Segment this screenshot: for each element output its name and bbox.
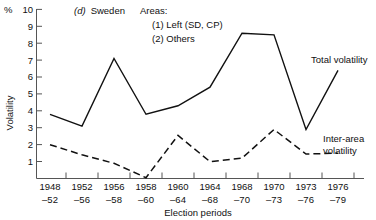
area-2-label: (2) Others bbox=[152, 33, 195, 44]
y-tick-label: 2 bbox=[28, 139, 33, 150]
x-tick-label-bottom: –68 bbox=[202, 194, 218, 205]
y-axis-ticks bbox=[37, 9, 43, 161]
x-tick-label-top: 1960 bbox=[167, 181, 188, 192]
x-tick-label-top: 1964 bbox=[199, 181, 220, 192]
x-axis-title: Election periods bbox=[164, 207, 232, 218]
x-tick-label-bottom: –70 bbox=[234, 194, 250, 205]
x-tick-label-bottom: –79 bbox=[330, 194, 346, 205]
chart-svg: 10 9 8 7 6 5 4 3 2 1 % Volatility bbox=[0, 0, 376, 220]
area-1-label: (1) Left (SD, CP) bbox=[152, 19, 223, 30]
areas-heading: Areas: bbox=[140, 5, 167, 16]
x-tick-label-bottom: –56 bbox=[74, 194, 90, 205]
figure-title-country: Sweden bbox=[91, 5, 125, 16]
y-tick-label: 1 bbox=[28, 156, 33, 167]
y-tick-label: 10 bbox=[22, 4, 33, 15]
x-tick-label-bottom: –52 bbox=[42, 194, 58, 205]
y-tick-label: 8 bbox=[28, 38, 33, 49]
x-tick-label-top: 1956 bbox=[103, 181, 124, 192]
y-axis-tick-labels: 10 9 8 7 6 5 4 3 2 1 bbox=[22, 4, 33, 167]
figure-title: (d)Sweden bbox=[74, 5, 125, 16]
x-tick-label-top: 1976 bbox=[327, 181, 348, 192]
y-tick-label: 7 bbox=[28, 55, 33, 66]
x-tick-label-bottom: –58 bbox=[106, 194, 122, 205]
y-tick-label: 3 bbox=[28, 122, 33, 133]
total-volatility-label: Total volatility bbox=[311, 54, 368, 65]
y-tick-label: 6 bbox=[28, 71, 33, 82]
x-tick-label-top: 1948 bbox=[39, 181, 60, 192]
series-line-total-volatility bbox=[50, 33, 338, 129]
x-axis-tick-labels: 1948 1952 1956 1958 1960 1964 1968 1970 … bbox=[39, 181, 348, 205]
figure-title-index: (d) bbox=[74, 5, 86, 16]
x-tick-label-bottom: –64 bbox=[170, 194, 186, 205]
y-tick-label: 4 bbox=[28, 105, 33, 116]
y-axis-title: Volatility bbox=[4, 95, 15, 130]
x-tick-label-top: 1970 bbox=[263, 181, 284, 192]
x-axis-ticks bbox=[66, 173, 354, 179]
y-tick-label: 5 bbox=[28, 88, 33, 99]
y-axis-unit: % bbox=[4, 4, 13, 15]
inter-area-volatility-label-line2: volatility bbox=[323, 145, 357, 156]
x-tick-label-bottom: –76 bbox=[298, 194, 314, 205]
x-tick-label-bottom: –73 bbox=[266, 194, 282, 205]
series-line-inter-area-volatility bbox=[50, 130, 338, 178]
x-tick-label-top: 1973 bbox=[295, 181, 316, 192]
x-tick-label-top: 1958 bbox=[135, 181, 156, 192]
x-tick-label-top: 1968 bbox=[231, 181, 252, 192]
y-tick-label: 9 bbox=[28, 21, 33, 32]
x-tick-label-top: 1952 bbox=[71, 181, 92, 192]
x-tick-label-bottom: –60 bbox=[138, 194, 154, 205]
chart-figure: 10 9 8 7 6 5 4 3 2 1 % Volatility bbox=[0, 0, 376, 220]
inter-area-volatility-label-line1: Inter-area bbox=[323, 133, 365, 144]
